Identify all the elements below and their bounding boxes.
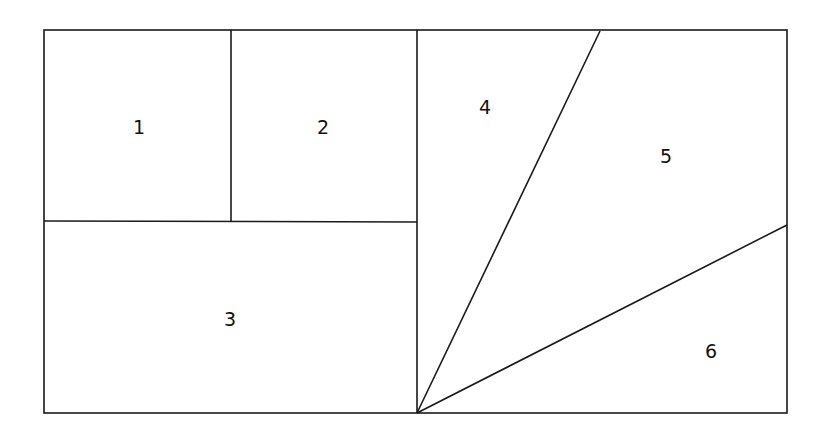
region-label-3: 3 [224,308,236,330]
partition-diagram: 123456 [0,0,830,445]
region-label-4: 4 [479,96,491,118]
diagonal-4-5 [417,31,600,413]
region-label-2: 2 [317,116,329,138]
region-label-5: 5 [660,145,672,167]
region-label-6: 6 [705,340,717,362]
region-label-1: 1 [133,116,145,138]
left-horizontal-divider [44,221,417,222]
diagonal-5-6 [417,225,787,413]
